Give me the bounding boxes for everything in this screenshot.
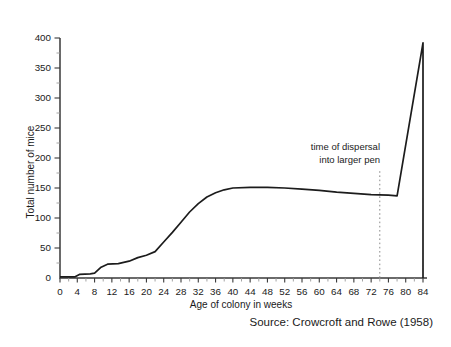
- y-tick-label: 0: [46, 272, 52, 283]
- x-tick-label: 60: [314, 286, 325, 297]
- annotation-line-2: into larger pen: [319, 154, 380, 165]
- x-tick-label: 0: [57, 286, 63, 297]
- x-tick-label: 48: [262, 286, 273, 297]
- x-tick-label: 68: [348, 286, 359, 297]
- x-tick-label: 8: [92, 286, 98, 297]
- x-tick-label: 36: [210, 286, 221, 297]
- y-tick-label: 400: [35, 32, 52, 43]
- x-tick-label: 16: [124, 286, 135, 297]
- mice-population-chart: 0501001502002503003504000481216202428323…: [0, 0, 451, 347]
- x-tick-label: 52: [279, 286, 290, 297]
- y-tick-label: 150: [35, 182, 52, 193]
- x-tick-label: 20: [141, 286, 152, 297]
- x-tick-label: 28: [176, 286, 187, 297]
- x-tick-label: 24: [158, 286, 169, 297]
- x-tick-label: 4: [75, 286, 81, 297]
- y-axis-title: Total number of mice: [25, 126, 36, 219]
- x-tick-label: 84: [418, 286, 429, 297]
- x-tick-label: 44: [245, 286, 256, 297]
- x-tick-label: 56: [297, 286, 308, 297]
- x-tick-label: 12: [106, 286, 117, 297]
- y-tick-label: 50: [40, 242, 51, 253]
- y-tick-label: 300: [35, 92, 52, 103]
- x-tick-label: 64: [331, 286, 342, 297]
- x-tick-label: 80: [400, 286, 411, 297]
- plot-svg: 0501001502002503003504000481216202428323…: [0, 0, 451, 347]
- annotation-line-1: time of dispersal: [311, 141, 380, 152]
- y-tick-label: 100: [35, 212, 52, 223]
- x-tick-label: 76: [383, 286, 394, 297]
- source-caption: Source: Crowcroft and Rowe (1958): [250, 316, 433, 328]
- x-tick-label: 32: [193, 286, 204, 297]
- x-tick-label: 40: [227, 286, 238, 297]
- x-tick-label: 72: [366, 286, 377, 297]
- dispersal-annotation: time of dispersal into larger pen: [311, 140, 380, 166]
- x-axis-title: Age of colony in weeks: [190, 299, 292, 310]
- y-tick-label: 350: [35, 62, 52, 73]
- y-tick-label: 250: [35, 122, 52, 133]
- y-tick-label: 200: [35, 152, 52, 163]
